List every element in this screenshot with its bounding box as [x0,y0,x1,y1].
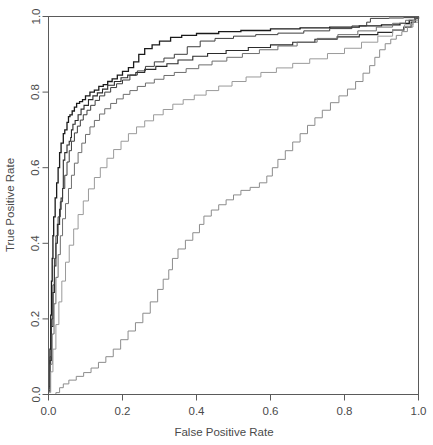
roc-chart-canvas: 0.00.20.40.60.81.0 0.00.20.40.60.81.0 Fa… [0,0,433,445]
y-tick-label: 0.2 [30,311,42,327]
y-axis-title: True Positive Rate [4,158,16,252]
x-tick-label: 0.8 [337,405,353,417]
x-tick-label: 0.2 [115,405,131,417]
y-tick-label: 0.4 [30,235,42,252]
figure-background [0,0,433,445]
y-tick-label: 1.0 [30,9,42,25]
x-tick-label: 0.4 [189,405,206,417]
x-tick-label: 0.0 [41,405,57,417]
y-tick-label: 0.6 [30,160,42,176]
roc-plot-figure: 0.00.20.40.60.81.0 0.00.20.40.60.81.0 Fa… [0,0,433,445]
x-axis-title: False Positive Rate [174,426,273,438]
y-tick-label: 0.8 [30,84,42,100]
x-tick-label: 0.6 [263,405,279,417]
x-tick-label: 1.0 [411,405,427,417]
y-tick-label: 0.0 [30,387,42,403]
